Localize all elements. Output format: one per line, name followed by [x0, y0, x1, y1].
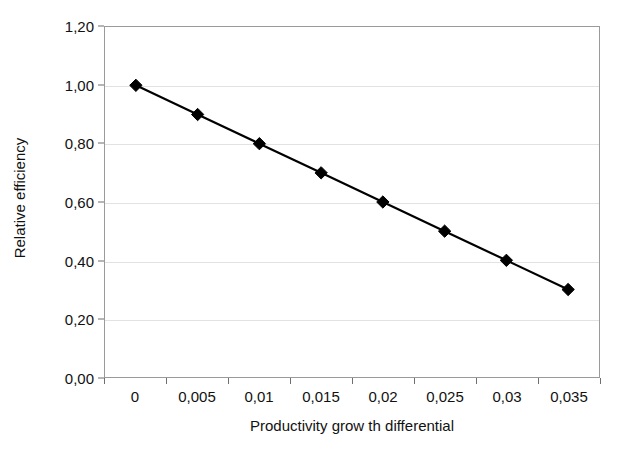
y-axis-tick-mark — [98, 143, 104, 144]
data-point-marker — [253, 138, 265, 150]
data-point-marker — [377, 196, 389, 208]
y-axis-tick-label: 1,20 — [65, 18, 94, 35]
y-axis-tick-labels: 0,000,200,400,600,801,001,20 — [36, 0, 98, 455]
x-axis-tick-mark — [166, 378, 167, 384]
x-axis-tick-label: 0,025 — [426, 388, 464, 405]
y-axis-title-text: Relative efficiency — [11, 138, 28, 259]
data-point-marker — [130, 79, 142, 91]
x-axis-tick-label: 0,02 — [368, 388, 397, 405]
y-axis-tick-mark — [98, 26, 104, 27]
data-series-line — [105, 27, 599, 377]
y-axis-tick-label: 0,80 — [65, 135, 94, 152]
x-axis-tick-mark — [538, 378, 539, 384]
y-axis-title: Relative efficiency — [6, 8, 32, 388]
data-point-marker — [315, 167, 327, 179]
x-axis-title: Productivity grow th differential — [104, 417, 600, 434]
y-axis-tick-label: 0,60 — [65, 194, 94, 211]
x-axis-tick-mark — [290, 378, 291, 384]
x-axis-tick-mark — [228, 378, 229, 384]
x-axis-tick-mark — [352, 378, 353, 384]
x-axis-tick-label: 0,005 — [178, 388, 216, 405]
x-axis-tick-mark — [414, 378, 415, 384]
data-point-marker — [191, 108, 203, 120]
x-axis-tick-mark — [476, 378, 477, 384]
y-axis-tick-label: 1,00 — [65, 76, 94, 93]
x-axis-tick-mark — [104, 378, 105, 384]
y-axis-tick-mark — [98, 260, 104, 261]
chart-container: Relative efficiency 0,000,200,400,600,80… — [0, 0, 621, 455]
data-point-marker — [500, 254, 512, 266]
y-axis-tick-label: 0,20 — [65, 311, 94, 328]
x-axis-tick-label: 0 — [131, 388, 139, 405]
data-point-marker — [562, 283, 574, 295]
x-axis-tick-label: 0,01 — [244, 388, 273, 405]
plot-area — [104, 26, 600, 378]
x-axis-tick-labels: 00,0050,010,0150,020,0250,030,035 — [0, 388, 621, 412]
y-axis-tick-label: 0,00 — [65, 370, 94, 387]
x-axis-tick-mark — [600, 378, 601, 384]
y-axis-tick-mark — [98, 319, 104, 320]
y-axis-tick-mark — [98, 202, 104, 203]
data-point-marker — [438, 225, 450, 237]
x-axis-tick-label: 0,03 — [492, 388, 521, 405]
x-axis-tick-label: 0,015 — [302, 388, 340, 405]
x-axis-tick-label: 0,035 — [550, 388, 588, 405]
y-axis-tick-label: 0,40 — [65, 252, 94, 269]
y-axis-tick-mark — [98, 84, 104, 85]
